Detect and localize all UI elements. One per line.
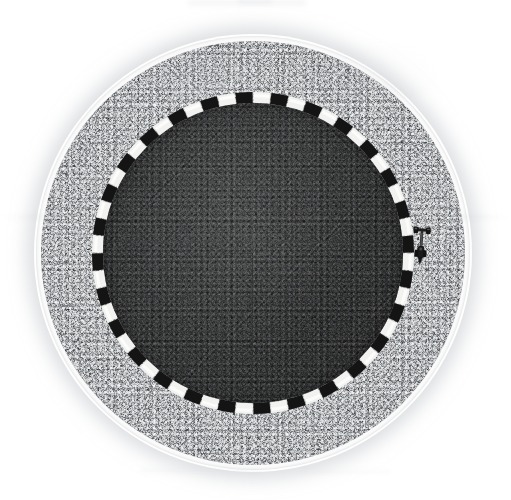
vehicle-label: Small robot car — [0, 0, 1, 1]
arena-label: Asphalt arena surface — [0, 0, 1, 1]
vehicle-icon — [411, 225, 432, 266]
apron-label: Gravel run-off apron — [0, 0, 1, 1]
track-scene: Top-down circular test track Checkered k… — [0, 0, 511, 500]
scene-title: Top-down circular test track — [0, 0, 1, 1]
scan-smudge — [188, 0, 306, 9]
kerb-block-white — [235, 402, 252, 414]
scan-smudge — [238, 0, 272, 5]
asphalt-arena-texture — [103, 103, 403, 403]
artifacts-label: Faint scan smudges — [0, 0, 1, 1]
kerb-label: Checkered kerb — [0, 0, 1, 1]
vehicle[interactable] — [411, 225, 432, 266]
rim-label: White outer rim — [0, 0, 1, 1]
scan-smudge — [300, 468, 390, 474]
kerb-block-black — [253, 402, 270, 414]
